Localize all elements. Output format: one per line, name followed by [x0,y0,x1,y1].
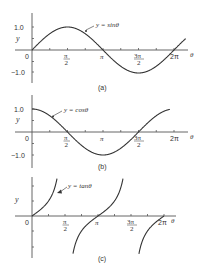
svg-text:2: 2 [137,59,141,67]
plot-cos: 1.0 −1.0 y 0 π 2 π 3π 2 2π θ y = cosθ (b… [11,95,194,171]
trig-figure: 1.0 −1.0 y 0 π 2 π 3π 2 2π θ y = sinθ (a… [0,0,203,272]
svg-text:2: 2 [65,141,69,149]
x-tick-2pi: 2π [170,53,179,60]
x-tick-pi: π [95,219,99,227]
sin-annotation: y = sinθ [95,21,119,29]
x-axis-label: θ [190,51,194,59]
annotation-arrow [86,26,94,30]
x-tick-pi-over-2: π 2 [64,134,71,150]
x-tick-0: 0 [25,53,29,60]
y-tick-1: 1.0 [14,106,24,113]
caption-a: (a) [98,84,107,92]
x-tick-pi-over-2: π 2 [64,52,71,68]
x-tick-3pi-over-2: 3π 2 [127,218,137,234]
plot-sin: 1.0 −1.0 y 0 π 2 π 3π 2 2π θ y = sinθ (a… [11,13,194,92]
caption-b: (b) [98,163,107,171]
svg-text:2: 2 [65,59,69,67]
x-tick-3pi-over-2: 3π 2 [134,52,144,68]
caption-c: (c) [98,255,106,263]
x-tick-0: 0 [25,135,29,142]
x-axis-label: θ [171,217,175,225]
tan-annotation: y = tanθ [67,182,92,190]
x-tick-2pi: 2π [158,219,167,226]
x-tick-pi: π [100,135,104,143]
svg-text:2: 2 [137,141,141,149]
y-axis-label: y [15,115,20,124]
x-axis-label: θ [190,133,194,141]
y-tick-minus-1: −1.0 [11,152,25,159]
cos-annotation: y = cosθ [63,106,89,114]
x-tick-3pi-over-2: 3π 2 [134,134,144,150]
annotation-arrow [53,111,62,116]
x-tick-pi: π [100,53,104,61]
y-axis-label: y [14,195,19,204]
x-tick-pi-over-2: π 2 [63,218,70,234]
plot-tan: y 0 π 2 π 3π 2 2π θ y = tanθ (c) [14,177,176,263]
x-tick-0: 0 [25,219,29,226]
svg-text:2: 2 [64,225,68,233]
svg-text:2: 2 [130,225,134,233]
y-tick-minus-1: −1.0 [11,69,25,76]
y-axis-label: y [15,34,20,43]
y-tick-1: 1.0 [14,24,24,31]
x-tick-2pi: 2π [170,135,179,142]
